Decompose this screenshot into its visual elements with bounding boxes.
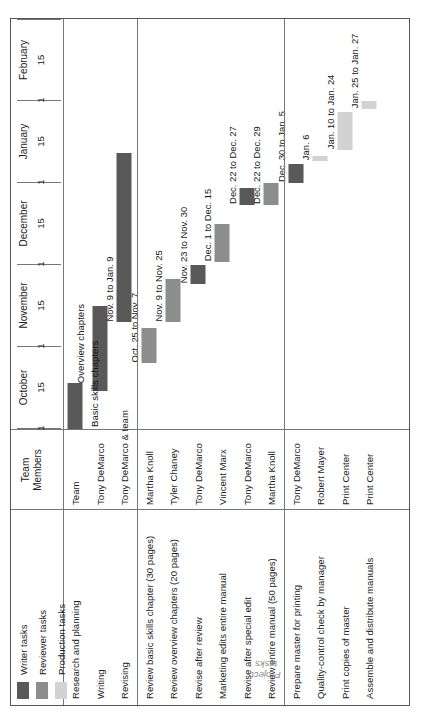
table-row[interactable]: Revise after reviewTony DeMarcoNov. 23 t… [186,19,211,705]
team-member-name: Martha Knoll [266,451,277,505]
gantt-bar[interactable] [68,383,83,429]
gantt-chart: Writing/Review Schedule: Software User's… [10,18,410,706]
project-tasks-line2: tasks [206,659,326,670]
tick-label-15: 15 [35,298,46,314]
tick-label-1: 1 [35,92,46,108]
table-row[interactable]: Marketing edits entire manualVincent Mar… [210,19,235,705]
month-label: October [18,347,29,428]
rotated-chart-stage: Writing/Review Schedule: Software User's… [0,0,439,724]
legend-label-reviewer: Reviewer tasks [37,610,48,675]
tick-label-15: 15 [35,52,46,68]
month-label: February [18,20,29,100]
legend-swatch-reviewer [36,682,48,699]
gantt-bar-date-label: Nov. 9 to Nov. 25 [153,250,164,321]
gantt-bar-date-label: Nov. 9 to Jan. 9 [104,256,115,321]
task-name: Writing [94,669,105,699]
gantt-bar[interactable] [141,328,156,364]
gantt-bar-date-label: Jan. 25 to Jan. 27 [349,34,360,109]
tick-label-15: 15 [35,216,46,232]
task-name: Research and planning [70,600,81,699]
tick-label-1: 1 [35,420,46,436]
gantt-bar[interactable] [288,164,303,183]
group-separator [137,19,138,705]
team-member-name: Robert Mayer [315,447,326,505]
gantt-bar[interactable] [166,279,181,323]
team-member-name: Vincent Marx [217,449,228,505]
month-october: October115 [17,347,61,429]
task-rows: Research and planningTeamWritingTony DeM… [63,19,409,705]
month-label: December [18,183,29,264]
gantt-bar-date-label: Jan. 10 to Jan. 24 [325,75,336,150]
table-row[interactable]: Prepare master for printingTony DeMarcoD… [284,19,309,705]
tick-label-1: 1 [35,338,46,354]
month-december: December115 [17,183,61,265]
month-label: January [18,101,29,182]
team-members-header-line2: Members [32,431,44,509]
month-november: November115 [17,265,61,347]
team-member-name: Print Center [364,454,375,505]
month-january: January115 [17,101,61,183]
task-name: Print copies of master [339,606,350,699]
gantt-bar-date-label: Dec. 1 to Dec. 15 [202,189,213,261]
task-name: Prepare master for printing [290,585,301,699]
team-member-name: Tony DeMarco [241,443,252,505]
gantt-bar-date-label: Dec. 22 to Dec. 27 [227,126,238,204]
table-row[interactable]: Assemble and distribute manualsPrint Cen… [357,19,382,705]
gantt-bar[interactable] [264,183,279,205]
gantt-bar-date-label: Oct. 25 to Nov. 7 [129,293,140,363]
gantt-bar[interactable] [362,101,377,109]
group-separator [284,19,285,705]
tick-label-15: 15 [35,134,46,150]
tick-label-15: 15 [35,380,46,396]
table-row[interactable]: Revise after special editTony DeMarcoDec… [235,19,260,705]
team-member-name: Tony DeMarco [290,443,301,505]
gantt-bar-date-label: Dec. 22 to Dec. 29 [251,126,262,204]
gantt-bar[interactable] [190,265,205,284]
table-row[interactable]: Review overview chapters (20 pages)Tyler… [161,19,186,705]
gantt-bar[interactable] [337,112,352,150]
legend-item-reviewer: Reviewer tasks [36,519,48,699]
task-name: Revise after special edit [241,597,252,699]
team-member-name: Team [70,482,81,505]
gantt-bar[interactable] [215,224,230,262]
gantt-bar[interactable] [313,156,328,161]
project-tasks-line1: Project [206,670,326,681]
team-members-header-line1: Team [20,431,32,509]
gantt-bar-date-label: Jan. 6 [300,135,311,161]
task-name: Revising [119,662,130,699]
team-member-name: Tony DeMarco & team [119,410,130,505]
team-member-name: Tony DeMarco [192,443,203,505]
task-name: Review basic skills chapter (30 pages) [143,536,154,699]
gantt-bar-date-label: Nov. 23 to Nov. 30 [178,207,189,283]
phase-caption-basic-skills: Basic skills chapters [89,341,100,427]
gantt-bar-date-label: Dec. 30 to Jan. 5 [276,111,287,182]
legend-swatch-writer [17,682,29,699]
month-label: November [18,265,29,346]
month-february: February115 [17,19,61,101]
phase-caption-overview: Overview chapters [75,304,86,383]
legend-item-writer: Writer tasks [17,519,29,699]
team-member-name: Tony DeMarco [94,443,105,505]
task-name: Review overview chapters (20 pages) [168,539,179,699]
tick-label-1: 1 [35,174,46,190]
team-member-name: Print Center [339,454,350,505]
project-tasks-axis-caption: Project tasks [206,659,326,681]
task-name: Assemble and distribute manuals [364,558,375,699]
task-name: Revise after review [192,617,203,699]
tick-label-1: 1 [35,256,46,272]
table-row[interactable]: Print copies of masterPrint CenterJan. 1… [333,19,358,705]
team-members-header: Team Members [20,431,44,509]
team-member-name: Tyler Chaney [168,448,179,505]
legend-label-writer: Writer tasks [18,625,29,675]
team-member-name: Martha Knoll [143,451,154,505]
table-row[interactable]: Review basic skills chapter (30 pages)Ma… [137,19,162,705]
